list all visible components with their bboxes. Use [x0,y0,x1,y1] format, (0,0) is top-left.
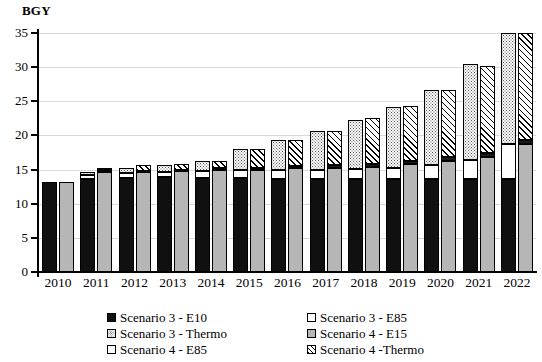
bar-segment-s4-e85 [212,168,227,170]
bar-scenario3-2019[interactable] [386,107,401,272]
bar-segment-s4-e15 [288,168,303,272]
y-axis-tick-label: 0 [4,265,28,278]
legend: Scenario 3 - E10Scenario 3 - E85Scenario… [107,311,437,359]
bar-segment-s3-e10 [348,179,363,272]
bar-scenario3-2012[interactable] [119,168,134,272]
bar-scenario4-2017[interactable] [327,131,342,272]
legend-item[interactable]: Scenario 4 -Thermo [307,343,424,356]
bar-group-2017 [307,33,345,272]
bar-segment-s3-thermo [501,33,516,144]
bar-segment-s3-thermo [157,165,172,171]
bar-segment-s4-e85 [327,165,342,168]
bar-segment-s3-thermo [348,120,363,169]
bar-scenario4-2013[interactable] [174,164,189,272]
bar-segment-s3-e10 [463,179,478,272]
bar-segment-s3-e85 [157,172,172,177]
legend-item[interactable]: Scenario 4 - E15 [307,327,407,340]
y-axis-tick-label: 20 [4,128,28,141]
bar-group-2013 [154,33,192,272]
bar-scenario4-2019[interactable] [403,106,418,272]
bar-segment-s3-e85 [386,168,401,179]
bar-segment-s4-thermo [97,168,112,170]
bar-group-2011 [77,33,115,272]
bar-scenario4-2021[interactable] [480,66,495,272]
dotted-swatch-icon [107,329,116,338]
bar-segment-s4-e85 [365,164,380,167]
y-axis-tick [31,271,39,273]
legend-item[interactable]: Scenario 3 - E10 [107,311,207,324]
bar-segment-s4-thermo [365,118,380,164]
bar-segment-s3-thermo [233,149,248,170]
bar-scenario4-2018[interactable] [365,118,380,272]
y-axis-tick-label: 15 [4,163,28,176]
legend-item[interactable]: Scenario 3 - Thermo [107,327,227,340]
bar-segment-s4-thermo [174,164,189,169]
bar-scenario3-2016[interactable] [271,140,286,272]
bar-scenario3-2018[interactable] [348,120,363,272]
bar-segment-s4-thermo [441,90,456,158]
bar-segment-s4-e15 [327,168,342,272]
bar-scenario3-2014[interactable] [195,161,210,272]
plot-area [39,33,536,272]
bar-segment-s4-e15 [59,182,74,272]
bar-segment-s4-e15 [136,172,151,272]
bar-segment-s3-e10 [195,178,210,272]
bar-segment-s4-e15 [97,172,112,272]
bar-scenario3-2011[interactable] [80,172,95,272]
bar-segment-s3-e85 [271,170,286,179]
bar-segment-s3-e85 [310,170,325,180]
bar-segment-s3-e85 [80,175,95,179]
bar-group-2019 [383,33,421,272]
gray-swatch-icon [307,329,316,338]
bar-segment-s3-thermo [424,90,439,166]
y-axis-tick-label: 25 [4,94,28,107]
bar-group-2020 [421,33,459,272]
bar-scenario3-2013[interactable] [157,165,172,272]
y-axis-tick-label: 30 [4,60,28,73]
bar-segment-s3-e10 [157,177,172,272]
y-axis-tick [31,237,39,239]
bar-segment-s4-e15 [250,170,265,272]
x-axis-tick-label: 2022 [495,276,539,290]
bar-scenario4-2016[interactable] [288,140,303,272]
bar-segment-s4-e85 [250,168,265,170]
bar-scenario4-2020[interactable] [441,90,456,272]
y-axis-tick [31,32,39,34]
bar-scenario4-2012[interactable] [136,165,151,272]
bar-scenario3-2010[interactable] [42,182,57,272]
bar-segment-s3-thermo [463,64,478,160]
white-swatch-icon [307,313,316,322]
bar-segment-s4-thermo [136,165,151,170]
bar-group-2014 [192,33,230,272]
bar-scenario4-2022[interactable] [518,33,533,272]
bar-scenario4-2011[interactable] [97,170,112,272]
bar-group-2021 [460,33,498,272]
bar-scenario3-2022[interactable] [501,33,516,272]
bar-scenario3-2020[interactable] [424,90,439,272]
y-axis-tick-labels: 05101520253035 [0,0,28,362]
bar-segment-s3-thermo [119,168,134,173]
bar-scenario3-2015[interactable] [233,149,248,272]
bar-segment-s3-e10 [233,178,248,272]
bar-scenario4-2010[interactable] [59,182,74,272]
hatched-swatch-icon [307,345,316,354]
bar-segment-s4-thermo [212,161,227,168]
bar-segment-s3-e10 [501,179,516,272]
chart-container: BGY 05101520253035 201020112012201320142… [0,0,542,362]
legend-item[interactable]: Scenario 3 - E85 [307,311,407,324]
bar-segment-s4-thermo [480,66,495,153]
legend-item[interactable]: Scenario 4 - E85 [107,343,207,356]
bar-scenario4-2015[interactable] [250,149,265,272]
bar-scenario3-2021[interactable] [463,64,478,272]
bar-segment-s3-e85 [119,173,134,178]
y-axis-tick [31,169,39,171]
bar-scenario3-2017[interactable] [310,131,325,272]
bar-segment-s4-e15 [174,171,189,272]
bar-segment-s3-e10 [42,182,57,272]
bar-scenario4-2014[interactable] [212,161,227,272]
bar-segment-s3-e85 [348,169,363,179]
bar-segment-s4-thermo [403,106,418,161]
y-axis-tick [31,203,39,205]
y-axis-tick-label: 10 [4,197,28,210]
bar-group-2010 [39,33,77,272]
